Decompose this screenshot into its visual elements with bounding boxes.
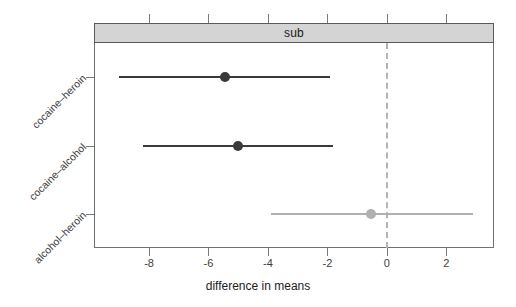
- zero-reference-line: [386, 43, 388, 248]
- x-tick-bottom: [327, 248, 328, 256]
- x-tick-top: [149, 14, 150, 23]
- point-estimate-marker: [233, 141, 243, 151]
- facet-strip: sub: [94, 23, 494, 43]
- x-tick-top: [208, 14, 209, 23]
- x-tick-top: [446, 14, 447, 23]
- x-tick-label: -6: [204, 257, 214, 269]
- x-tick-label: -8: [144, 257, 154, 269]
- y-category-label: cocaine–heroin: [20, 72, 88, 140]
- x-tick-top: [268, 14, 269, 23]
- y-category-label: alcohol–heroin: [20, 209, 88, 277]
- x-tick-bottom: [446, 248, 447, 256]
- x-axis-title: difference in means: [0, 279, 516, 293]
- x-tick-top: [387, 14, 388, 23]
- x-tick-label: -2: [323, 257, 333, 269]
- x-tick-label: 0: [384, 257, 390, 269]
- x-tick-bottom: [387, 248, 388, 256]
- facet-strip-label: sub: [284, 27, 304, 39]
- y-tick: [86, 214, 94, 215]
- x-tick-label: -4: [263, 257, 273, 269]
- x-tick-bottom: [208, 248, 209, 256]
- y-category-label: cocaine–alcohol: [20, 140, 88, 208]
- x-tick-bottom: [149, 248, 150, 256]
- point-estimate-marker: [220, 72, 230, 82]
- x-tick-bottom: [268, 248, 269, 256]
- point-estimate-marker: [366, 209, 376, 219]
- x-tick-label: 2: [443, 257, 449, 269]
- x-tick-top: [327, 14, 328, 23]
- confidence-interval-plot: sub -8-6-4-202 cocaine–heroincocaine–alc…: [0, 0, 516, 307]
- y-tick: [86, 77, 94, 78]
- y-tick: [86, 146, 94, 147]
